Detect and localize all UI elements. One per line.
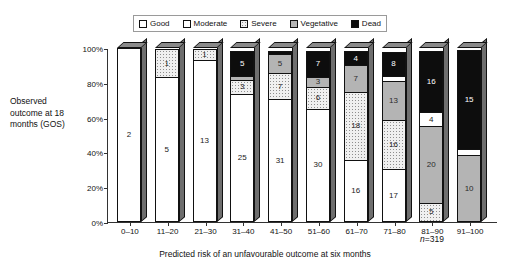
bar-segment-severe: 18 [344,92,368,162]
legend-label: Vegetative [301,20,338,28]
bar-segment-value: 13 [389,97,398,105]
bar-segment-vegetative: 10 [457,155,481,222]
bar-segment-severe: 3 [230,80,254,95]
bar-segment-value: 16 [389,141,398,149]
y-axis-tick-mark [104,49,108,50]
bar-side-face [292,38,298,222]
bar-segment-dead: 8 [382,52,406,77]
bar-segment-vegetative: 3 [306,77,330,88]
bar-31–40[interactable]: 25315 [230,48,254,222]
bar-segment-value: 15 [465,96,474,104]
x-axis-tick-mark [319,222,320,226]
bar-segment-vegetative: 20 [419,126,443,203]
bar-side-face [443,38,449,222]
bar-segment-value: 4 [353,55,357,63]
legend-item-vegetative: Vegetative [290,20,338,28]
x-axis-tick-mark [432,222,433,226]
plot-inner: 0%20%40%60%80%100%20–105111–2013121–3025… [108,49,497,222]
bar-segment-vegetative: 7 [344,65,368,92]
bar-segment-good: 16 [344,160,368,222]
bar-segment-moderate: 1 [457,149,481,156]
bar-side-face [254,38,260,222]
bar-segment-value: 5 [240,60,244,68]
bar-segment-dead: 15 [457,50,481,150]
x-axis-title: Predicted risk of an unfavourable outcom… [120,249,410,259]
bar-segment-good: 31 [268,99,292,222]
bar-segment-value: 17 [389,192,398,200]
bar-91–100[interactable]: 10115 [457,48,481,222]
bar-segment-dead: 4 [344,51,368,66]
legend-item-dead: Dead [351,20,381,28]
bar-segment-value: 1 [164,60,168,68]
x-axis-tick-mark [395,222,396,226]
bar-segment-value: 16 [351,187,360,195]
bar-side-face [368,38,374,222]
y-axis-tick-mark [104,84,108,85]
x-axis-tick-label: 21–30 [194,227,216,236]
bar-segment-value: 10 [465,185,474,193]
swatch-vegetative-icon [290,20,298,28]
bar-segment-value: 5 [278,60,282,68]
bar-11–20[interactable]: 51 [155,48,179,222]
x-axis-tick-label: 51–60 [308,227,330,236]
swatch-severe-icon [240,20,248,28]
bar-segment-value: 18 [351,122,360,130]
bar-segment-good: 30 [306,109,330,222]
x-axis-tick-label: 61–70 [346,227,368,236]
bar-segment-severe: 1 [155,49,179,78]
bar-segment-good: 25 [230,94,254,222]
x-axis-tick-label: 91–100 [457,227,484,236]
legend-item-good: Good [139,20,170,28]
legend-item-moderate: Moderate [183,20,228,28]
bar-51–60[interactable]: 30637 [306,48,330,222]
x-axis-tick-mark [243,222,244,226]
bar-0–10[interactable]: 2 [117,48,141,222]
bar-segment-good: 2 [117,48,141,222]
x-axis-tick-label: 0–10 [121,227,139,236]
bar-segment-severe: 7 [268,73,292,101]
bar-segment-value: 6 [316,94,320,102]
legend-label: Good [150,20,170,28]
y-axis-tick-mark [104,153,108,154]
bar-segment-good: 5 [155,77,179,222]
bar-segment-severe: 16 [382,120,406,170]
sample-size-annotation: n=319 [420,234,444,244]
legend-item-severe: Severe [240,20,276,28]
x-axis-tick-label: 71–80 [383,227,405,236]
bar-81–90[interactable]: 520416 [419,48,443,222]
bar-segment-value: 13 [200,137,209,145]
bar-61–70[interactable]: 161874 [344,48,368,222]
bar-segment-dead: 1 [268,51,292,55]
legend-label: Moderate [194,20,228,28]
legend-label: Severe [251,20,276,28]
bar-segment-value: 3 [240,83,244,91]
bar-segment-value: 2 [127,131,131,139]
swatch-moderate-icon [183,20,191,28]
x-axis-tick-label: 11–20 [157,227,179,236]
bar-segment-value: 7 [353,75,357,83]
bar-segment-moderate: 4 [419,112,443,127]
bar-21–30[interactable]: 131 [193,48,217,222]
bar-side-face [481,38,487,222]
bar-segment-good: 13 [193,60,217,222]
bar-segment-value: 7 [316,60,320,68]
bar-side-face [217,38,223,222]
bar-segment-value: 31 [276,157,285,165]
swatch-dead-icon [351,20,359,28]
stacked-bar-chart-figure: GoodModerateSevereVegetativeDead Observe… [0,0,518,273]
sample-size-value: =319 [425,234,444,244]
bar-segment-severe: 6 [306,87,330,110]
bar-segment-dead: 16 [419,51,443,113]
plot-area: 0%20%40%60%80%100%20–105111–2013121–3025… [107,49,497,223]
bar-segment-value: 8 [391,60,395,68]
swatch-good-icon [139,20,147,28]
bar-side-face [406,38,412,222]
bar-segment-vegetative: 5 [268,54,292,74]
bar-segment-severe: 5 [419,203,443,222]
bar-71–80[interactable]: 17161328 [382,48,406,222]
bar-segment-severe: 1 [193,49,217,61]
bar-segment-value: 5 [429,208,433,216]
bar-41–50[interactable]: 31751 [268,48,292,222]
y-axis-title: Observed outcome at 18 months (GOS) [10,96,72,131]
y-axis-tick-mark [104,223,108,224]
